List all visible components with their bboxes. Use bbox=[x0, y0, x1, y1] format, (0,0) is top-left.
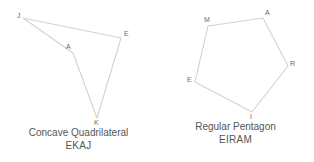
figure-regular-pentagon: M A R I E Regular Pentagon EIRAM bbox=[157, 0, 314, 162]
vertex-label-a: A bbox=[265, 9, 270, 17]
vertex-label-e: E bbox=[124, 30, 129, 38]
vertex-label-m: M bbox=[204, 16, 210, 24]
vertex-label-j: J bbox=[17, 12, 21, 20]
vertex-label-a: A bbox=[66, 43, 71, 51]
figure-concave-quadrilateral: J E A K Concave Quadrilateral EKAJ bbox=[0, 0, 157, 162]
pentagon-outline bbox=[195, 18, 288, 112]
vertex-label-r: R bbox=[290, 60, 295, 68]
concave-quadrilateral-drawing bbox=[0, 0, 157, 130]
caption-vertex-sequence: EKAJ bbox=[0, 139, 157, 152]
caption-shape-name: Regular Pentagon bbox=[157, 120, 314, 133]
caption-shape-name: Concave Quadrilateral bbox=[0, 126, 157, 139]
caption-vertex-sequence: EIRAM bbox=[157, 133, 314, 146]
quadrilateral-outline bbox=[23, 18, 121, 118]
figures-canvas: J E A K Concave Quadrilateral EKAJ M A R… bbox=[0, 0, 314, 162]
vertex-label-e: E bbox=[187, 76, 192, 84]
